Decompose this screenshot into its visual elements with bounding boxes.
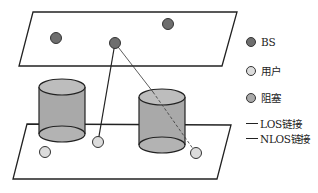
- nlos-line-icon: [246, 138, 258, 139]
- legend-item-obstacle: 阻塞: [246, 90, 280, 105]
- legend-item-nlos: NLOS链接: [246, 131, 310, 146]
- legend-label-obstacle: 阻塞: [261, 90, 280, 105]
- legend-item-los: LOS链接: [246, 116, 301, 131]
- user-node-1: [40, 147, 51, 158]
- user-node-2: [93, 137, 104, 148]
- obstacle-cylinder-1: [39, 79, 85, 142]
- bs-node-serving: [110, 38, 121, 49]
- legend-item-user: 用户: [246, 63, 280, 78]
- legend-label-los: LOS链接: [260, 116, 301, 131]
- bs-node-1: [51, 33, 62, 44]
- obstacle-dot-icon: [246, 93, 256, 103]
- legend-item-bs: BS: [246, 36, 275, 48]
- user-dot-icon: [246, 66, 256, 76]
- user-node-3: [191, 148, 202, 159]
- bs-node-2: [163, 19, 174, 30]
- legend-label-bs: BS: [261, 36, 275, 48]
- bs-dot-icon: [246, 37, 256, 47]
- obstacle-cylinder-2: [139, 89, 185, 153]
- los-line-icon: [246, 123, 258, 124]
- legend-label-user: 用户: [261, 63, 280, 78]
- legend-label-nlos: NLOS链接: [260, 131, 310, 146]
